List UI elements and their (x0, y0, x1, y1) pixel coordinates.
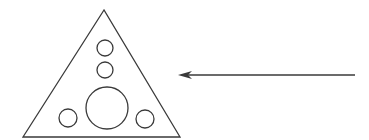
circle-top-small (97, 40, 113, 56)
triangle (23, 10, 180, 137)
triangle-with-circles (23, 10, 180, 137)
left-arrow-icon (178, 71, 355, 79)
circle-middle-small (97, 62, 113, 78)
circle-center-large (86, 87, 128, 129)
circle-bottom-right-small (136, 110, 154, 128)
diagram-canvas (0, 0, 369, 140)
circle-bottom-left-small (59, 109, 77, 127)
